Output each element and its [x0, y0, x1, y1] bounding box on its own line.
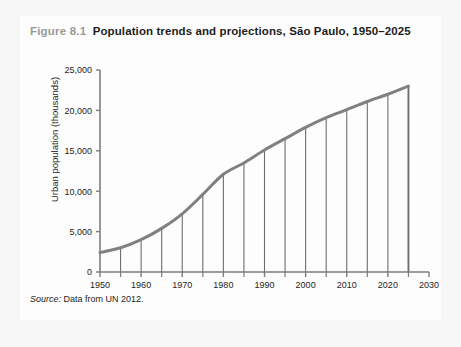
svg-text:0: 0: [87, 267, 92, 277]
svg-text:2010: 2010: [337, 280, 357, 290]
y-axis-tick-labels: 05,00010,00015,00020,00025,000: [64, 65, 92, 277]
source-label: Source:: [30, 294, 61, 304]
screenshot-root: Figure 8.1 Population trends and project…: [0, 0, 461, 347]
svg-text:20,000: 20,000: [64, 106, 92, 116]
svg-text:1980: 1980: [213, 280, 233, 290]
svg-text:2030: 2030: [419, 280, 439, 290]
series-line-population: [100, 86, 408, 252]
chart-plot-area: 05,00010,00015,00020,00025,000 195019601…: [20, 16, 441, 320]
svg-text:1960: 1960: [131, 280, 151, 290]
svg-text:2000: 2000: [296, 280, 316, 290]
svg-text:10,000: 10,000: [64, 187, 92, 197]
x-axis-tick-labels: 195019601970198019902000201020202030: [90, 280, 439, 290]
svg-text:1970: 1970: [172, 280, 192, 290]
svg-text:2020: 2020: [378, 280, 398, 290]
svg-text:25,000: 25,000: [64, 65, 92, 75]
source-note: Source: Data from UN 2012.: [30, 294, 144, 304]
figure-card: Figure 8.1 Population trends and project…: [20, 16, 441, 320]
y-axis-title: Urban population (thousands): [49, 60, 60, 220]
svg-text:15,000: 15,000: [64, 146, 92, 156]
svg-text:5,000: 5,000: [69, 227, 92, 237]
svg-text:1990: 1990: [254, 280, 274, 290]
svg-text:1950: 1950: [90, 280, 110, 290]
drop-lines: [121, 86, 409, 272]
population-line-chart: 05,00010,00015,00020,00025,000 195019601…: [20, 16, 441, 320]
source-text: Data from UN 2012.: [61, 294, 144, 304]
